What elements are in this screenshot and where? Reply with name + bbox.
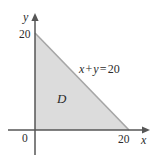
equation-right-hand-value: 20 (108, 62, 120, 76)
region-label-d: D (57, 92, 66, 105)
origin-label: 0 (22, 133, 28, 145)
equation-operator-equals: = (99, 62, 108, 76)
equation-variable-y: y (93, 62, 98, 76)
y-axis-tick-label-20: 20 (19, 29, 31, 41)
y-axis-arrow-icon (31, 13, 38, 21)
y-axis-label: y (23, 11, 28, 23)
x-axis-tick-label-20: 20 (118, 134, 130, 146)
x-axis-label: x (141, 134, 146, 146)
boundary-line-equation-label: x+y=20 (79, 63, 120, 75)
math-figure-region-d: y x 20 20 0 D x+y=20 (0, 0, 158, 165)
equation-operator-plus: + (84, 62, 93, 76)
